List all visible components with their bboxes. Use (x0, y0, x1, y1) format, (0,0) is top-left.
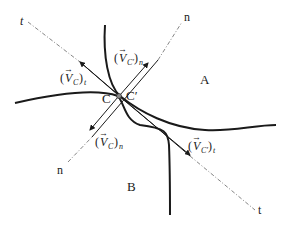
svg-text:t: t (84, 78, 87, 87)
n-axis-lower (68, 137, 92, 162)
svg-text:): ) (79, 71, 83, 85)
t-axis-upper (28, 22, 80, 62)
vc-n-label: ( V C ) n → (95, 128, 123, 151)
contact-point (117, 94, 122, 99)
point-c-prime-label: C′ (126, 88, 138, 103)
t-lower-label: t (258, 203, 262, 217)
vc-t-label: ( V C ) t → (60, 64, 87, 87)
region-a-label: A (200, 72, 210, 87)
t-upper-label: t (20, 14, 24, 28)
n-upper-label: n (184, 10, 190, 24)
svg-text:): ) (114, 135, 118, 149)
body-a-boundary (105, 25, 276, 130)
n-lower-label: n (57, 163, 63, 177)
n-axis-upper (158, 22, 182, 60)
svg-text:→: → (118, 44, 127, 54)
svg-text:n: n (139, 58, 143, 67)
vcp-t-label: ( V C′ ) t → (188, 132, 216, 155)
t-axis-lower (190, 156, 255, 210)
point-c-label: C (102, 91, 111, 106)
svg-text:→: → (99, 128, 108, 138)
vcp-n-label: ( V C′ ) n → (114, 44, 143, 67)
body-b-boundary (15, 92, 170, 215)
contact-diagram: t t n n A B C C′ ( V C ) t → ( V C′ ) n … (0, 0, 286, 225)
svg-text:): ) (208, 139, 212, 153)
svg-text:t: t (213, 146, 216, 155)
svg-text:→: → (64, 64, 73, 74)
svg-text:→: → (192, 132, 201, 142)
svg-text:): ) (134, 51, 138, 65)
svg-text:n: n (119, 142, 123, 151)
region-b-label: B (127, 179, 136, 194)
